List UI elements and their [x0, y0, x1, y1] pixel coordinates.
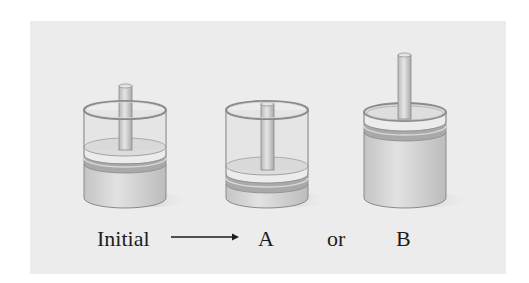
cylinder-b [364, 53, 466, 208]
label-a: A [258, 228, 274, 250]
label-b: B [396, 228, 411, 250]
label-or: or [327, 228, 345, 250]
label-initial: Initial [97, 228, 150, 250]
long-right-arrow-icon [171, 234, 239, 241]
cylinder-a [226, 101, 328, 208]
cylinder-initial [84, 84, 188, 208]
